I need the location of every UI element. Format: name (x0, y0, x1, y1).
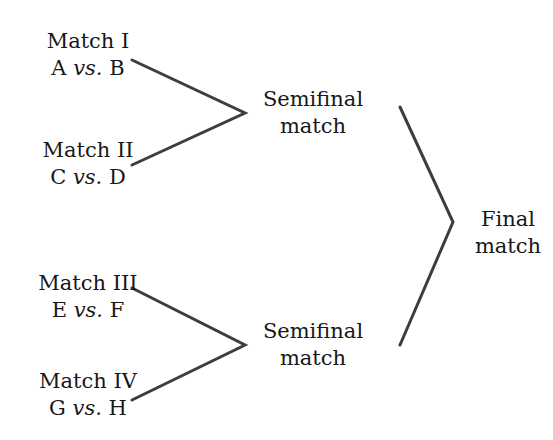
semifinal-label-2: Semifinal match (251, 318, 375, 373)
match-4-competitors: G vs. H (18, 395, 158, 422)
match-1-vs: vs. (73, 56, 102, 80)
match-3-competitors: E vs. F (18, 297, 158, 324)
match-2-vs: vs. (73, 165, 102, 189)
match-2-competitors: C vs. D (18, 164, 158, 191)
semifinal-2-line1: Semifinal (251, 318, 375, 345)
semifinal-1-line1: Semifinal (251, 86, 375, 113)
match-1-right: B (109, 56, 124, 80)
match-1-competitors: A vs. B (18, 55, 158, 82)
match-4-name: Match IV (18, 368, 158, 395)
match-label-4: Match IV G vs. H (18, 368, 158, 423)
match-label-2: Match II C vs. D (18, 137, 158, 192)
semifinal-2-line2: match (251, 345, 375, 372)
match-1-left: A (51, 56, 66, 80)
connector-final-line (400, 107, 453, 345)
match-2-name: Match II (18, 137, 158, 164)
match-4-vs: vs. (73, 396, 102, 420)
match-1-name: Match I (18, 28, 158, 55)
match-3-left: E (52, 298, 67, 322)
final-line1: Final (465, 206, 551, 233)
final-label: Final match (465, 206, 551, 261)
match-label-1: Match I A vs. B (18, 28, 158, 83)
match-3-right: F (110, 298, 125, 322)
match-label-3: Match III E vs. F (18, 270, 158, 325)
match-4-left: G (49, 396, 66, 420)
final-line2: match (465, 233, 551, 260)
match-4-right: H (109, 396, 127, 420)
semifinal-label-1: Semifinal match (251, 86, 375, 141)
match-2-left: C (50, 165, 66, 189)
semifinal-1-line2: match (251, 113, 375, 140)
match-3-vs: vs. (74, 298, 103, 322)
match-3-name: Match III (18, 270, 158, 297)
match-2-right: D (109, 165, 126, 189)
tournament-bracket-diagram: Match I A vs. B Match II C vs. D Match I… (0, 0, 553, 440)
